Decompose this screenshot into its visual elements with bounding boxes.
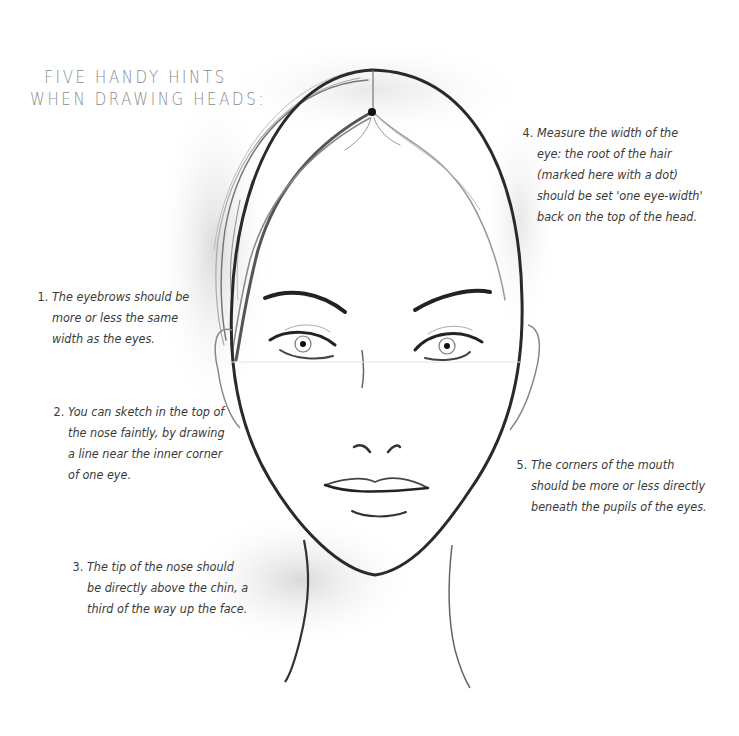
hint-2: 2. You can sketch in the top of the nose… — [68, 401, 225, 485]
hint-4: 4. Measure the width of the eye: the roo… — [537, 122, 703, 227]
hint-line: eye: the root of the hair — [537, 143, 703, 164]
hint-line: back on the top of the head. — [537, 206, 703, 227]
neck-right — [449, 545, 470, 688]
head-outline — [231, 70, 522, 575]
hint-line: (marked here with a dot) — [537, 164, 703, 185]
title-line-2: WHEN DRAWING HEADS: — [30, 88, 241, 110]
right-eyebrow — [415, 291, 490, 310]
hint-line: of one eye. — [68, 464, 225, 485]
hint-line: more or less the same — [52, 307, 189, 328]
right-ear — [510, 325, 539, 430]
nose-guide-line — [362, 350, 364, 388]
mouth — [325, 478, 428, 516]
right-nostril — [388, 446, 400, 452]
hint-line: beneath the pupils of the eyes. — [531, 496, 707, 517]
hint-line: be directly above the chin, a — [87, 577, 248, 598]
hint-line: Measure the width of the — [537, 122, 703, 143]
hint-line: width as the eyes. — [52, 328, 189, 349]
head-illustration — [0, 0, 739, 736]
hint-number: 4. — [523, 122, 534, 143]
hint-number: 1. — [38, 286, 49, 307]
hint-line: The tip of the nose should — [87, 556, 248, 577]
hint-line: The corners of the mouth — [531, 454, 707, 475]
hint-5: 5. The corners of the mouth should be mo… — [531, 454, 707, 517]
right-eye — [415, 326, 482, 360]
title-line-1: FIVE HANDY HINTS — [30, 66, 241, 88]
hint-line: a line near the inner corner — [68, 443, 225, 464]
hint-1: 1. The eyebrows should be more or less t… — [52, 286, 189, 349]
hint-line: should be set 'one eye-width' — [537, 185, 703, 206]
hint-number: 5. — [517, 454, 528, 475]
hint-number: 3. — [73, 556, 84, 577]
left-nostril — [354, 445, 370, 452]
hint-3: 3. The tip of the nose should be directl… — [87, 556, 248, 619]
hint-line: should be more or less directly — [531, 475, 707, 496]
left-eyebrow — [265, 293, 345, 312]
left-eye — [270, 325, 335, 359]
page-title: FIVE HANDY HINTS WHEN DRAWING HEADS: — [30, 66, 241, 110]
hint-line: You can sketch in the top of — [68, 401, 225, 422]
hint-line: The eyebrows should be — [52, 286, 189, 307]
hint-line: third of the way up the face. — [87, 598, 248, 619]
hint-line: the nose faintly, by drawing — [68, 422, 225, 443]
hair-root-dot — [368, 108, 376, 116]
hint-number: 2. — [54, 401, 65, 422]
